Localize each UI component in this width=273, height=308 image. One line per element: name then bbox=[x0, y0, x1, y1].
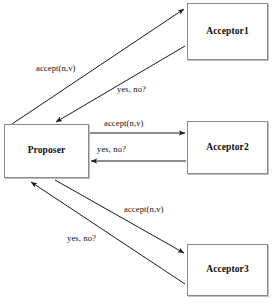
node-acceptor1-label: Acceptor1 bbox=[206, 27, 249, 37]
edge-label-proposer-to-acceptor3: accept(n,v) bbox=[124, 205, 164, 214]
node-acceptor2[interactable]: Acceptor2 bbox=[187, 121, 268, 174]
figure-caption bbox=[0, 301, 273, 308]
node-acceptor3-label: Acceptor3 bbox=[206, 265, 249, 275]
edge-label-acceptor3-to-proposer: yes, no? bbox=[67, 234, 96, 243]
paxos-accept-phase-figure: Proposer Acceptor1 Acceptor2 Acceptor3 a… bbox=[0, 0, 273, 308]
edge-label-proposer-to-acceptor2: accept(n,v) bbox=[104, 119, 144, 128]
node-proposer-label: Proposer bbox=[28, 146, 66, 156]
node-acceptor2-label: Acceptor2 bbox=[206, 143, 249, 153]
arrow-acceptor3-to-proposer bbox=[31, 182, 185, 284]
node-acceptor3[interactable]: Acceptor3 bbox=[187, 244, 268, 296]
node-acceptor1[interactable]: Acceptor1 bbox=[187, 3, 268, 60]
edge-label-acceptor2-to-proposer: yes, no? bbox=[97, 145, 126, 154]
edge-label-proposer-to-acceptor1: accept(n,v) bbox=[36, 64, 76, 73]
node-proposer[interactable]: Proposer bbox=[4, 124, 89, 178]
edge-label-acceptor1-to-proposer: yes, no? bbox=[117, 85, 146, 94]
